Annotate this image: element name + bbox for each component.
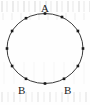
- circle-point-p2: [61, 16, 64, 19]
- circle-point-p4: [82, 47, 85, 50]
- main-circle: [7, 14, 83, 84]
- figure-container: ABB: [0, 0, 90, 105]
- circle-outline-layer: [7, 14, 83, 84]
- label-b-left: B: [18, 85, 25, 96]
- circle-point-p8: [25, 78, 28, 81]
- circle-point-p12: [25, 17, 28, 20]
- circle-point-p11: [11, 30, 14, 33]
- circle-point-p7: [44, 82, 47, 85]
- circle-diagram-svg: [0, 0, 90, 105]
- circle-points-layer: [6, 12, 85, 85]
- circle-point-p3: [77, 30, 80, 33]
- circle-point-p5: [77, 65, 80, 68]
- circle-point-p6: [63, 78, 66, 81]
- circle-point-p10: [6, 47, 9, 50]
- circle-point-p9: [11, 65, 14, 68]
- label-b-right: B: [64, 85, 71, 96]
- label-a: A: [41, 3, 49, 14]
